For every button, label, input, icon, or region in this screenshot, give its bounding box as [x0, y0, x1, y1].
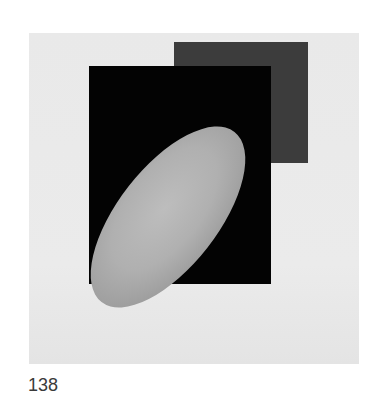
plate-number: 138 — [28, 375, 58, 396]
